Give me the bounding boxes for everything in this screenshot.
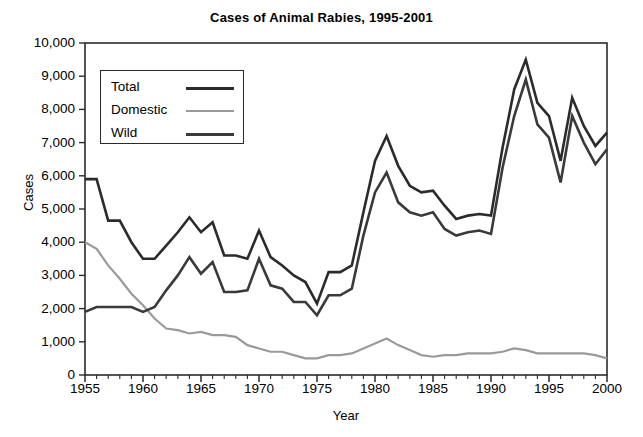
plot-area	[0, 0, 643, 437]
legend-color-swatch	[186, 110, 234, 112]
legend-color-swatch	[186, 87, 234, 90]
legend-color-swatch	[186, 133, 234, 136]
legend-item-label: Domestic	[111, 102, 167, 117]
legend-item-wild: Wild	[101, 122, 245, 146]
legend-item-label: Total	[111, 79, 140, 94]
chart-figure: Cases of Animal Rabies, 1995-2001 Cases …	[0, 0, 643, 437]
legend-item-label: Wild	[111, 125, 137, 140]
chart-legend: TotalDomesticWild	[100, 70, 244, 144]
legend-item-total: Total	[101, 76, 245, 100]
legend-item-domestic: Domestic	[101, 99, 245, 123]
series-line-domestic	[85, 242, 607, 358]
